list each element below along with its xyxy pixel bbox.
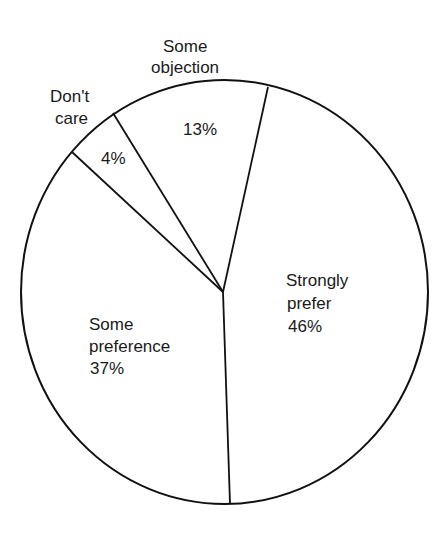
label-strongly-prefer-line1: Strongly xyxy=(286,271,349,290)
value-some-objection: 13% xyxy=(183,120,217,139)
label-dont-care-line1: Don't xyxy=(50,87,89,106)
value-some-preference: 37% xyxy=(90,359,124,378)
pie-outline xyxy=(21,80,428,504)
label-some-objection-line1: Some xyxy=(163,37,207,56)
value-dont-care: 4% xyxy=(101,149,126,168)
label-some-preference-line2: preference xyxy=(89,337,170,356)
value-strongly-prefer: 46% xyxy=(288,317,322,336)
label-some-objection-line2: objection xyxy=(151,58,219,77)
label-strongly-prefer-line2: prefer xyxy=(287,294,332,313)
pie-chart: Some objection 13% Don't care 4% Strongl… xyxy=(0,0,447,533)
label-some-preference-line1: Some xyxy=(89,315,133,334)
label-dont-care-line2: care xyxy=(55,109,88,128)
